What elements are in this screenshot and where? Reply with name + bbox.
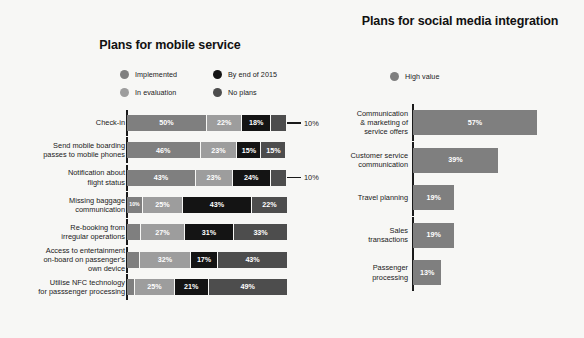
value-bar[interactable]: 19% — [413, 185, 454, 210]
bar-value-label: 43% — [245, 256, 259, 263]
bar-segment[interactable]: 17% — [191, 252, 218, 268]
chart-row: Access to entertainmenton-board on passe… — [20, 252, 320, 268]
chart-row: Passengerprocessing13% — [338, 260, 578, 285]
bar-value-label: 22% — [262, 201, 276, 208]
legend-dot-icon — [213, 88, 222, 97]
bar-segment[interactable]: 31% — [185, 224, 235, 240]
value-bar[interactable]: 57% — [413, 110, 537, 135]
callout-leader-line — [287, 177, 301, 178]
bar-segment[interactable]: 22% — [207, 115, 242, 131]
chart-row: Missing baggagecommunication10%25%43%22% — [20, 197, 320, 213]
bar-segment[interactable]: 15% — [261, 142, 285, 158]
category-label: Missing baggagecommunication — [20, 196, 125, 214]
category-label: Re-booking fromirregular operations — [20, 223, 125, 241]
bar-segment[interactable] — [271, 170, 287, 186]
bar-value-label: 23% — [207, 174, 221, 181]
legend-dot-icon — [120, 70, 129, 79]
chart-row: Travel planning19% — [338, 185, 578, 210]
legend-mobile-service: ImplementedBy end of 2015In evaluationNo… — [120, 70, 330, 106]
bar-segment[interactable]: 46% — [127, 142, 201, 158]
stacked-bar[interactable]: 25%21%49% — [127, 279, 287, 295]
legend-item-by-end-of-2015[interactable]: By end of 2015 — [213, 70, 277, 79]
bar-segment[interactable]: 25% — [143, 197, 183, 213]
chart-row: Salestransactions19% — [338, 223, 578, 248]
bar-segment[interactable] — [271, 115, 287, 131]
stacked-bar[interactable]: 43%23%24%10% — [127, 170, 287, 186]
mobile-service-panel: Plans for mobile service ImplementedBy e… — [0, 0, 338, 338]
value-bar[interactable]: 13% — [413, 260, 441, 285]
value-bar[interactable]: 39% — [413, 148, 498, 173]
stacked-bar[interactable]: 32%17%43% — [127, 252, 287, 268]
bar-segment[interactable]: 21% — [175, 279, 209, 295]
category-label: Send mobile boardingpasses to mobile pho… — [20, 141, 125, 159]
stacked-bar[interactable]: 50%22%18%10% — [127, 115, 287, 131]
bar-segment[interactable]: 24% — [233, 170, 271, 186]
bar-value-label: 39% — [448, 156, 462, 163]
legend-dot-icon — [390, 72, 399, 81]
callout-leader-line — [287, 122, 301, 123]
bar-segment[interactable]: 10% — [127, 197, 143, 213]
legend-item-high-value[interactable]: High value — [390, 72, 439, 81]
category-label: Salestransactions — [338, 226, 408, 244]
stacked-bar[interactable]: 46%23%15%15% — [127, 142, 287, 158]
legend-item-no-plans[interactable]: No plans — [213, 88, 257, 97]
bar-segment[interactable] — [127, 252, 140, 268]
bar-segment[interactable]: 43% — [183, 197, 252, 213]
category-label: Customer servicecommunication — [338, 151, 408, 169]
plot-area-mobile-service: Check-in50%22%18%10%Send mobile boarding… — [20, 112, 320, 304]
bar-value-label: 10% — [129, 202, 139, 207]
legend-row: ImplementedBy end of 2015 — [120, 70, 330, 79]
bar-segment[interactable]: 23% — [201, 142, 238, 158]
bar-segment[interactable]: 15% — [237, 142, 261, 158]
page-title-social-media: Plans for social media integration — [340, 14, 580, 28]
category-label: Travel planning — [338, 193, 408, 202]
bar-segment[interactable]: 25% — [135, 279, 175, 295]
legend-label: In evaluation — [135, 88, 176, 97]
bar-value-label: 22% — [217, 119, 231, 126]
bar-segment[interactable]: 43% — [218, 252, 287, 268]
bar-value-label: 23% — [211, 147, 225, 154]
bar-value-label: 50% — [159, 119, 173, 126]
page-title-mobile-service: Plans for mobile service — [20, 38, 320, 52]
bar-segment[interactable]: 49% — [209, 279, 287, 295]
bar-segment[interactable]: 27% — [141, 224, 184, 240]
legend-item-in-evaluation[interactable]: In evaluation — [120, 88, 213, 97]
chart-row: Send mobile boardingpasses to mobile pho… — [20, 142, 320, 158]
bar-value-label: 43% — [154, 174, 168, 181]
bar-segment[interactable]: 23% — [196, 170, 233, 186]
bar-value-label: 17% — [197, 256, 211, 263]
bar-segment[interactable]: 43% — [127, 170, 196, 186]
legend-label: High value — [405, 72, 439, 81]
bar-segment[interactable] — [127, 224, 141, 240]
category-label: Passengerprocessing — [338, 263, 408, 281]
bar-segment[interactable]: 22% — [252, 197, 287, 213]
legend-item-implemented[interactable]: Implemented — [120, 70, 213, 79]
bar-segment[interactable]: 33% — [234, 224, 287, 240]
bar-value-label: 25% — [147, 283, 161, 290]
legend-label: Implemented — [135, 70, 177, 79]
plot-area-social-media: Communication& marketing ofservice offer… — [338, 108, 578, 300]
bar-value-label: 31% — [202, 229, 216, 236]
chart-row: Check-in50%22%18%10% — [20, 115, 320, 131]
bar-value-label: 18% — [249, 119, 263, 126]
bar-value-label: 57% — [468, 119, 482, 126]
bar-value-label: 15% — [242, 147, 256, 154]
bar-segment[interactable]: 50% — [127, 115, 207, 131]
bar-value-label: 19% — [426, 194, 440, 201]
chart-row: Customer servicecommunication39% — [338, 148, 578, 173]
bar-value-label: 21% — [184, 283, 198, 290]
category-label: Utilise NFC technologyfor passsenger pro… — [20, 278, 125, 296]
stacked-bar[interactable]: 27%31%33% — [127, 224, 287, 240]
legend-social-media: High value — [390, 72, 570, 90]
bar-segment[interactable]: 32% — [140, 252, 191, 268]
bar-segment[interactable]: 18% — [242, 115, 271, 131]
bar-value-label: 13% — [420, 269, 434, 276]
value-bar[interactable]: 19% — [413, 223, 454, 248]
stacked-bar[interactable]: 10%25%43%22% — [127, 197, 287, 213]
callout-label: 10% — [304, 119, 319, 128]
bar-segment[interactable] — [127, 279, 135, 295]
chart-row: Utilise NFC technologyfor passsenger pro… — [20, 279, 320, 295]
legend-row: In evaluationNo plans — [120, 88, 330, 97]
bar-value-label: 27% — [155, 229, 169, 236]
legend-row: High value — [390, 72, 570, 81]
